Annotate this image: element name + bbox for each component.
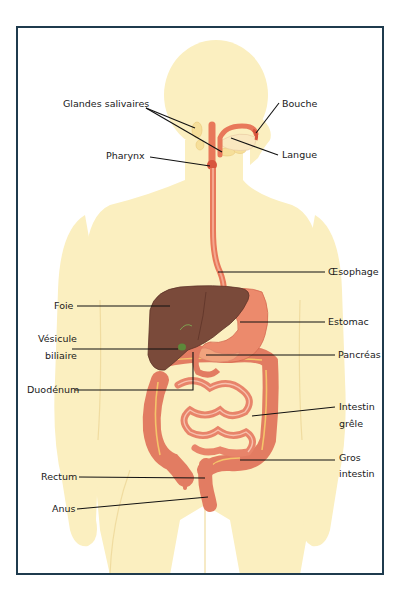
label-small-intestine-line2: grêle: [339, 418, 363, 430]
label-anus: Anus: [52, 503, 76, 515]
label-pharynx: Pharynx: [106, 150, 145, 162]
label-gallbladder-line1: Vésicule: [38, 333, 77, 345]
label-duodenum: Duodénum: [27, 384, 79, 396]
label-liver: Foie: [54, 300, 73, 312]
label-tongue: Langue: [282, 149, 317, 161]
label-esophagus: Œsophage: [328, 266, 379, 278]
label-gallbladder-line2: biliaire: [45, 350, 77, 362]
label-salivary-glands: Glandes salivaires: [63, 98, 149, 110]
label-pancreas: Pancréas: [338, 349, 381, 361]
label-large-intestine-line2: intestin: [339, 468, 375, 480]
label-rectum: Rectum: [41, 471, 77, 483]
digestive-system-illustration: [0, 0, 400, 590]
label-stomach: Estomac: [328, 316, 369, 328]
label-large-intestine-line1: Gros: [339, 452, 361, 464]
gallbladder: [178, 344, 186, 351]
label-small-intestine-line1: Intestin: [339, 401, 375, 413]
label-mouth: Bouche: [282, 98, 317, 110]
